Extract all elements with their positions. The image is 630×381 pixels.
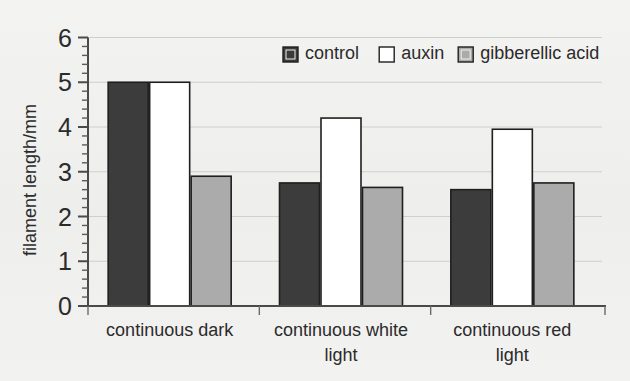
bar-gibberellic-acid-2	[534, 183, 574, 306]
bar-control-2	[451, 190, 491, 306]
y-tick-label: 1	[58, 247, 72, 275]
y-tick-label: 4	[58, 113, 72, 141]
bar-auxin-1	[321, 118, 361, 306]
y-tick-labels: 0123456	[58, 24, 72, 321]
x-category-label: continuous white	[274, 320, 408, 340]
y-tick-label: 3	[58, 158, 72, 186]
y-tick-label: 6	[58, 24, 72, 52]
bars-layer	[108, 82, 574, 306]
bar-auxin-0	[150, 82, 190, 306]
bar-auxin-2	[492, 129, 532, 306]
bar-control-0	[108, 82, 148, 306]
x-category-label: continuous red	[453, 320, 571, 340]
legend-label-gibberellic-acid: gibberellic acid	[480, 43, 599, 63]
legend-swatch-inner	[382, 50, 391, 59]
x-category-label: continuous dark	[106, 320, 234, 340]
chart-legend: controlauxingibberellic acid	[283, 43, 599, 63]
x-category-label: light	[324, 345, 357, 365]
legend-swatch-inner	[286, 50, 295, 59]
y-tick-label: 2	[58, 203, 72, 231]
chart-svg: 0123456 continuous darkcontinuous whitel…	[0, 0, 630, 381]
y-tick-label: 0	[58, 292, 72, 320]
y-axis-title: filament length/mm	[20, 104, 40, 256]
x-category-labels: continuous darkcontinuous whitelightcont…	[106, 320, 571, 365]
bar-chart-figure: 0123456 continuous darkcontinuous whitel…	[0, 0, 630, 381]
bar-control-1	[280, 183, 320, 306]
y-tick-label: 5	[58, 68, 72, 96]
legend-label-auxin: auxin	[401, 43, 444, 63]
legend-swatch-inner	[461, 50, 470, 59]
y-axis-title: filament length/mm	[20, 104, 40, 256]
bar-gibberellic-acid-1	[363, 187, 403, 306]
legend-label-control: control	[305, 43, 359, 63]
x-category-label: light	[496, 345, 529, 365]
bar-gibberellic-acid-0	[191, 176, 231, 306]
